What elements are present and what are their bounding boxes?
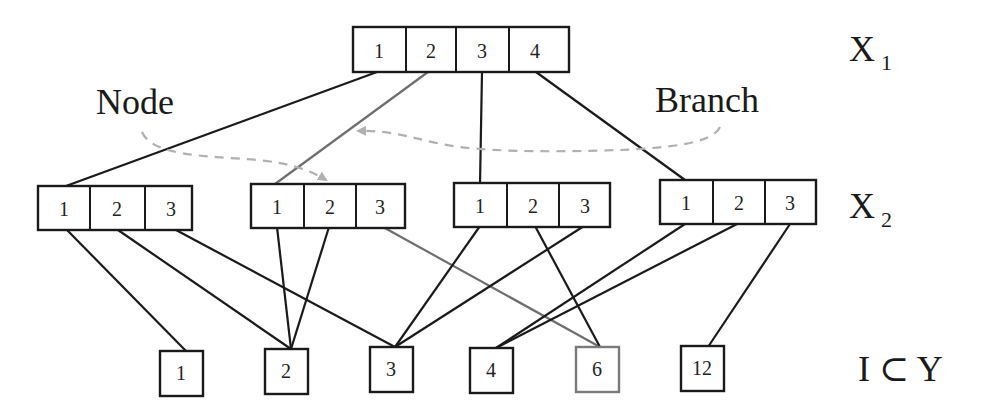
x2-level-label: X 2 [849,186,892,232]
leaf-row-label: I ⊂ Y [858,349,943,389]
x1-level-label: X 1 [849,29,892,75]
group4-cell-2: 2 [734,192,744,214]
edge-g4c2-leaf4 [496,224,737,348]
edge-top3-group3 [480,72,482,184]
group3-cell-2: 2 [528,195,538,217]
top-cell-3: 3 [477,40,487,62]
top-cell-4: 4 [530,40,540,62]
edge-g4c3-leaf12 [708,224,790,347]
edge-g1c3-leaf3 [176,230,395,347]
node-label: Node [96,82,174,122]
group1-cell-3: 3 [166,198,176,220]
x2-label: X [849,186,875,226]
group1-cell-1: 1 [59,198,69,220]
edge-g2c2-leaf2 [291,227,329,349]
x1-subscript: 1 [881,50,892,75]
edges-second-to-leaves [67,224,790,351]
top-node: 1 2 3 4 [353,27,569,72]
leaf-12: 12 [692,357,712,379]
x1-label: X [849,29,875,69]
leaf-2: 2 [281,360,291,382]
node-annotation-arrow [142,132,326,180]
group3-cell-3: 3 [580,195,590,217]
edge-g2c1-leaf2 [277,227,291,349]
group1-cell-2: 2 [112,198,122,220]
leaf-4: 4 [486,359,496,381]
leaf-3: 3 [386,358,396,380]
group4-cell-1: 1 [681,192,691,214]
group3-cell-1: 1 [475,195,485,217]
leaf-6: 6 [592,358,602,380]
group4-cell-3: 3 [785,192,795,214]
top-cell-1: 1 [374,40,384,62]
second-level-group-1: 1 2 3 [38,186,192,230]
group2-cell-3: 3 [375,196,385,218]
edge-g3c1-leaf3 [395,226,480,347]
top-cell-2: 2 [426,40,436,62]
edge-g3c3-leaf3 [395,226,584,347]
branch-annotation-arrow [358,127,720,151]
second-level-group-4: 1 2 3 [660,180,816,224]
branch-label: Branch [655,80,759,120]
edge-g1c1-leaf1 [67,230,186,351]
second-level-group-3: 1 2 3 [454,183,610,227]
x2-subscript: 2 [881,207,892,232]
group2-cell-2: 2 [325,196,335,218]
tree-diagram: 1 2 3 4 1 2 3 1 2 3 1 2 3 1 2 3 [0,0,986,418]
second-level-group-2: 1 2 3 [251,184,405,228]
group2-cell-1: 1 [272,196,282,218]
leaf-row: 1 2 3 4 6 12 [160,346,724,396]
edge-g1c2-leaf2 [118,230,291,349]
leaf-1: 1 [176,362,186,384]
